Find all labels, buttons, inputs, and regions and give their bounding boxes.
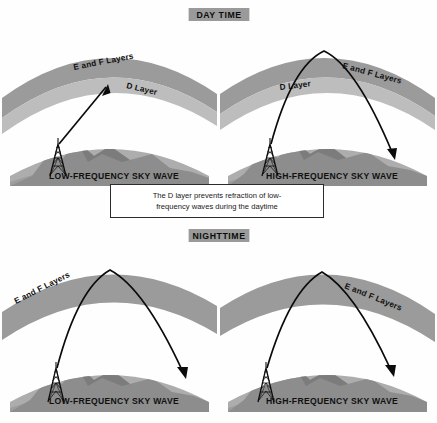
ground-label-low-frequency: LOW-FREQUENCY SKY WAVE	[49, 396, 179, 406]
ground-label-high-frequency: HIGH-FREQUENCY SKY WAVE	[266, 171, 398, 181]
sky-wave-propagation-figure: DAY TIME E and F Layers D Layer	[0, 0, 437, 423]
section-banner-nighttime: NIGHTTIME	[189, 229, 250, 242]
ground-label-high-frequency: HIGH-FREQUENCY SKY WAVE	[266, 396, 398, 406]
panel-daytime-high-frequency: E and F Layers D Layer HIGH-FREQUENCY SK	[220, 26, 435, 186]
caption-text: The D layer prevents refraction of low- …	[111, 191, 323, 212]
caption-line-2: frequency waves during the daytime	[156, 202, 278, 211]
panel-nighttime-low-frequency: E and F Layers LOW-FREQUENCY SKY WAVE	[2, 252, 217, 412]
ground-label-low-frequency: LOW-FREQUENCY SKY WAVE	[49, 171, 179, 181]
section-banner-daytime: DAY TIME	[189, 8, 250, 21]
caption-line-1: The D layer prevents refraction of low-	[153, 191, 282, 200]
caption-box: The D layer prevents refraction of low- …	[110, 184, 324, 218]
ef-layer-band	[220, 274, 435, 342]
panel-nighttime-high-frequency: E and F Layers HIGH-FREQUENCY SKY WAVE	[220, 252, 435, 412]
panel-daytime-low-frequency: E and F Layers D Layer	[2, 26, 217, 186]
ef-layer-band	[2, 274, 217, 340]
